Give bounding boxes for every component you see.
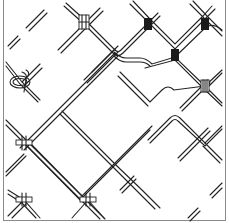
striped-clip-icon bbox=[201, 80, 209, 92]
clips bbox=[10, 15, 209, 206]
wires bbox=[6, 1, 222, 221]
wave-wires-right bbox=[148, 80, 222, 221]
wire-mesh-figure bbox=[0, 0, 229, 223]
bracket-clip-icon bbox=[79, 15, 89, 29]
crossing-mesh-bottom bbox=[6, 53, 160, 219]
loop-clip-icon bbox=[10, 70, 30, 92]
